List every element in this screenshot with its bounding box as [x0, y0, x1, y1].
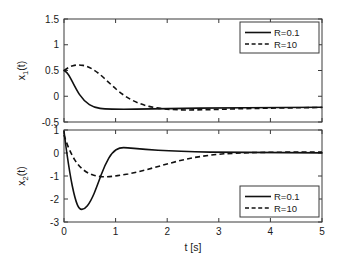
chart-svg: 1.5 1 0.5 0 -0.5 x1(t) R=0.1 R: [0, 0, 340, 264]
bottom-xtick-3: 3: [216, 226, 222, 237]
bottom-xtick-0: 0: [61, 226, 67, 237]
bottom-ylabel-group: x2(t): [15, 166, 30, 185]
top-ylabel-group: x1(t): [15, 61, 30, 80]
top-ylabel: x1(t): [15, 61, 30, 80]
bottom-legend-label-r0p1: R=0.1: [274, 191, 300, 202]
top-ytick-0_5: 0.5: [45, 65, 59, 76]
bottom-ytick-1: 1: [53, 125, 59, 136]
bottom-ytick-neg2: -2: [50, 194, 59, 205]
bottom-ytick-neg1: -1: [50, 171, 59, 182]
top-y-ticklabels: 1.5 1 0.5 0 -0.5: [42, 14, 60, 128]
bottom-ylabel-tail: (t): [15, 166, 27, 176]
top-ytick-0: 0: [53, 91, 59, 102]
figure-canvas: 1.5 1 0.5 0 -0.5 x1(t) R=0.1 R: [0, 0, 340, 264]
top-legend-label-r0p1: R=0.1: [274, 27, 300, 38]
bottom-ytick-neg3: -3: [50, 217, 59, 228]
bottom-xtick-1: 1: [113, 226, 119, 237]
bottom-xtick-4: 4: [268, 226, 274, 237]
bottom-xtick-5: 5: [319, 226, 325, 237]
bottom-xtick-2: 2: [164, 226, 170, 237]
top-legend-label-r10: R=10: [274, 39, 297, 50]
bottom-x-ticklabels: 0 1 2 3 4 5: [61, 226, 325, 237]
top-ylabel-tail: (t): [15, 61, 27, 71]
subplot-top: 1.5 1 0.5 0 -0.5 x1(t) R=0.1 R: [15, 14, 322, 128]
bottom-y-ticklabels: 1 0 -1 -2 -3: [50, 125, 59, 228]
top-legend[interactable]: R=0.1 R=10: [240, 22, 319, 53]
bottom-ytick-0: 0: [53, 148, 59, 159]
top-ytick-1_5: 1.5: [45, 14, 59, 25]
bottom-ylabel: x2(t): [15, 166, 30, 185]
x-axis-label: t [s]: [185, 241, 202, 253]
subplot-bottom: 1 0 -1 -2 -3 0 1 2 3 4 5 t [s] x2(t): [15, 125, 325, 254]
bottom-legend[interactable]: R=0.1 R=10: [240, 186, 319, 217]
bottom-legend-label-r10: R=10: [274, 203, 297, 214]
top-ytick-1: 1: [53, 39, 59, 50]
